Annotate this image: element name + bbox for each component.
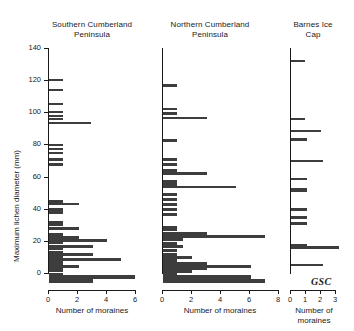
bar-row <box>163 163 177 166</box>
bar-row <box>291 208 307 211</box>
x-tick-label-2: 2 <box>184 296 198 304</box>
bar-row <box>163 279 265 283</box>
x-tick-0 <box>290 290 291 294</box>
bar-row <box>163 238 183 241</box>
x-tick-0 <box>162 290 163 294</box>
x-axis-caption-barnes: Number of moraines <box>278 306 350 325</box>
bar-row <box>163 203 177 206</box>
x-tick-3 <box>335 290 336 294</box>
bar-row <box>291 264 323 266</box>
x-tick-label-1: 1 <box>298 296 312 304</box>
bar-row <box>163 117 207 119</box>
x-tick-label-2: 2 <box>313 296 327 304</box>
bar-row <box>163 213 177 216</box>
x-axis-line-barnes <box>290 290 336 291</box>
bar-row <box>163 139 177 142</box>
x-tick-label-6: 6 <box>242 296 256 304</box>
x-tick-1 <box>305 290 306 294</box>
bar-row <box>163 172 207 175</box>
bar-row <box>163 229 177 231</box>
panel-barnes-ice-cap: 0 1 2 3 Number of moraines GSC <box>0 0 120 331</box>
bar-row <box>163 249 177 252</box>
x-tick-2 <box>191 290 192 294</box>
bar-row <box>291 178 307 180</box>
bar-row <box>163 158 177 161</box>
bar-row <box>291 130 321 132</box>
lichenometry-histogram-figure: Maximum lichen diameter (mm) Southern Cu… <box>0 0 354 331</box>
bar-row <box>163 84 177 87</box>
bar-row <box>291 160 323 162</box>
bar-row <box>291 118 305 120</box>
bar-row <box>291 188 307 192</box>
x-tick-6 <box>249 290 250 294</box>
bar-row <box>163 208 177 211</box>
x-axis-caption-north: Number of moraines <box>170 306 270 316</box>
bar-row <box>163 108 177 110</box>
bar-row <box>291 216 307 219</box>
bar-row <box>163 186 236 188</box>
x-tick-label-3: 3 <box>328 296 342 304</box>
x-tick-8 <box>278 290 279 294</box>
x-tick-label-0: 0 <box>283 296 297 304</box>
x-tick-label-4: 4 <box>213 296 227 304</box>
panel-title-northern-cumberland: Northern Cumberland Peninsula <box>156 20 264 40</box>
x-tick-4 <box>220 290 221 294</box>
x-tick-label-0: 0 <box>155 296 169 304</box>
panel-title-barnes-ice-cap: Barnes Ice Cap <box>280 20 346 40</box>
bar-row <box>163 198 177 201</box>
bar-row <box>163 112 177 115</box>
gsc-credit-label: GSC <box>311 276 331 287</box>
bar-row <box>291 138 307 141</box>
x-tick-2 <box>320 290 321 294</box>
bar-row <box>291 246 339 249</box>
bar-row <box>163 193 177 196</box>
bar-row <box>291 222 307 225</box>
bar-row <box>163 245 183 248</box>
bar-row <box>291 60 305 62</box>
